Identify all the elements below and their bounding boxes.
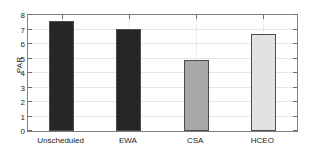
y-axis-tick-label: 1 (21, 112, 25, 121)
y-axis-tick-right (293, 116, 297, 117)
y-axis-tick-label: 8 (21, 11, 25, 20)
y-axis-tick (28, 43, 32, 44)
y-axis-tick (28, 130, 32, 131)
y-axis-tick (28, 58, 32, 59)
y-axis-tick-right (293, 101, 297, 102)
y-axis-tick-right (293, 87, 297, 88)
x-axis-tick-top (263, 15, 264, 19)
y-axis-tick-right (293, 29, 297, 30)
plot-area: 012345678 (27, 14, 298, 132)
y-axis-tick (28, 87, 32, 88)
y-axis-tick-label: 0 (21, 127, 25, 136)
y-axis-tick-right (293, 14, 297, 15)
bar-ewa (116, 29, 141, 131)
x-axis-tick-top (62, 15, 63, 19)
y-axis-tick (28, 72, 32, 73)
y-axis-tick (28, 29, 32, 30)
y-axis-tick-label: 3 (21, 83, 25, 92)
y-axis-tick-label: 4 (21, 69, 25, 78)
x-axis-tick-top (129, 15, 130, 19)
y-axis-tick (28, 101, 32, 102)
bar-csa (184, 60, 209, 131)
x-axis-label-hceo: HCEO (251, 136, 274, 145)
y-axis-tick-right (293, 43, 297, 44)
y-axis-tick-right (293, 130, 297, 131)
bar-hceo (251, 34, 276, 131)
bar-chart-figure: PAR 012345678 UnscheduledEWACSAHCEO (0, 0, 311, 165)
y-axis-tick-label: 7 (21, 25, 25, 34)
x-axis-label-ewa: EWA (119, 136, 137, 145)
y-axis-tick-label: 6 (21, 40, 25, 49)
x-axis-label-csa: CSA (187, 136, 203, 145)
x-axis-tick-top (196, 15, 197, 19)
y-axis-tick-right (293, 58, 297, 59)
bar-unscheduled (49, 21, 74, 131)
y-axis-tick-label: 5 (21, 54, 25, 63)
y-axis-tick (28, 14, 32, 15)
y-axis-tick-right (293, 72, 297, 73)
x-axis-label-unscheduled: Unscheduled (37, 136, 84, 145)
y-axis-tick (28, 116, 32, 117)
y-axis-tick-label: 2 (21, 98, 25, 107)
